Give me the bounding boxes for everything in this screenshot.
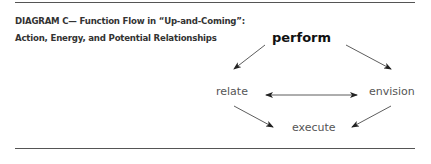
node-perform: perform [272, 30, 331, 45]
node-envision: envision [369, 85, 415, 98]
node-execute: execute [292, 121, 336, 134]
arrow-envision-execute [352, 106, 391, 127]
bottom-divider [15, 148, 415, 149]
arrow-perform-relate [234, 45, 265, 69]
flow-arrows [0, 0, 431, 164]
node-relate: relate [216, 85, 248, 98]
arrow-relate-execute [234, 106, 273, 127]
arrow-perform-envision [346, 45, 391, 69]
